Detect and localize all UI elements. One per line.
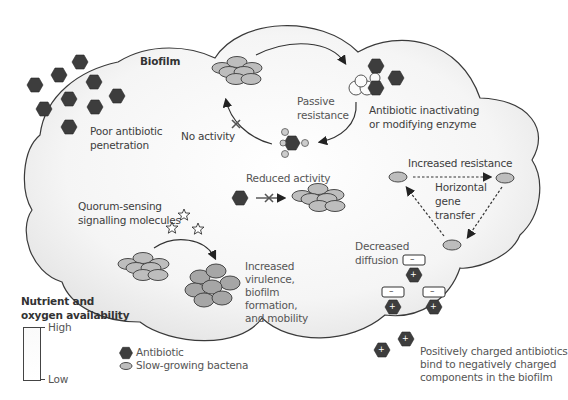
nutrient-low-label: Low: [48, 373, 68, 386]
label-enzyme-1: Antibiotic inactivating: [369, 104, 479, 117]
label-reduced-activity: Reduced activity: [246, 172, 330, 185]
label-hgt-2: gene: [435, 195, 460, 208]
label-passive-resistance-1: Passive: [297, 95, 334, 108]
label-increased-resistance: Increased resistance: [408, 157, 512, 170]
positive-charge-sign: +: [389, 300, 396, 313]
label-passive-resistance-2: resistance: [297, 109, 349, 122]
label-poor-penetration-2: penetration: [90, 139, 149, 152]
label-diffusion-2: diffusion: [355, 254, 398, 267]
label-poor-penetration-1: Poor antibiotic: [90, 125, 162, 138]
label-charged-1: Positively charged antibiotics: [420, 345, 567, 358]
positive-charge-sign: +: [402, 332, 409, 345]
negative-charge-sign: –: [410, 253, 414, 266]
positive-charge-sign: +: [378, 343, 385, 356]
label-virulence-2: virulence,: [245, 273, 295, 286]
negative-charge-sign: –: [430, 285, 434, 298]
label-virulence-4: formation,: [245, 299, 297, 312]
label-hgt-1: Horizontal: [435, 181, 487, 194]
label-virulence-5: and mobility: [245, 312, 308, 325]
biofilm-title: Biofilm: [140, 55, 180, 68]
positive-charge-sign: +: [430, 300, 437, 313]
nutrient-high-label: High: [48, 321, 71, 334]
negative-charge-sign: –: [389, 285, 393, 298]
tick-high: [40, 327, 45, 328]
label-no-activity: No activity: [181, 130, 235, 143]
label-virulence-3: biofilm: [245, 286, 279, 299]
positive-charge-sign: +: [410, 268, 417, 281]
label-charged-2: bind to negatively charged: [420, 358, 556, 371]
label-enzyme-2: or modifying enzyme: [369, 118, 476, 131]
nutrient-gradient-bar: [23, 327, 41, 381]
label-quorum-2: signalling molecules: [78, 214, 181, 227]
label-charged-3: components in the biofilm: [420, 371, 552, 384]
nutrient-title-1: Nutrient and: [21, 295, 94, 308]
label-diffusion-1: Decreased: [355, 240, 409, 253]
legend-bacteria-label: Slow-growing bactena: [136, 359, 248, 372]
legend-antibiotic-label: Antibiotic: [136, 346, 184, 359]
tick-low: [40, 379, 45, 380]
label-quorum-1: Quorum-sensing: [78, 200, 162, 213]
label-virulence-1: Increased: [245, 260, 294, 273]
label-hgt-3: transfer: [435, 209, 475, 222]
nutrient-title-2: oxygen availability: [21, 309, 129, 322]
legend: [120, 347, 133, 369]
